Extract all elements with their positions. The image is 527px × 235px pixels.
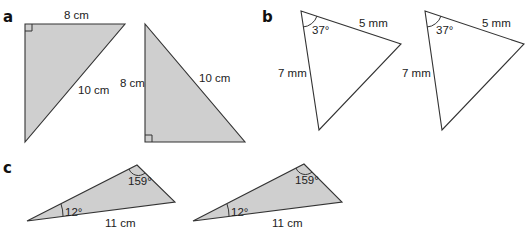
side-label: 5 mm bbox=[359, 17, 388, 29]
triangle-b1: 37° 5 mm 7 mm bbox=[278, 11, 401, 130]
part-label-b: b bbox=[262, 8, 273, 26]
angle-label: 12° bbox=[231, 206, 248, 218]
angle-label: 37° bbox=[312, 24, 329, 36]
congruence-diagram: a 8 cm 10 cm 8 cm 10 cm b 37° 5 mm 7 mm … bbox=[0, 0, 527, 235]
angle-label: 37° bbox=[436, 24, 453, 36]
side-label: 8 cm bbox=[64, 9, 89, 21]
side-label: 10 cm bbox=[78, 84, 109, 96]
triangle-a1: 8 cm 10 cm bbox=[25, 9, 125, 142]
side-label: 8 cm bbox=[120, 77, 145, 89]
side-label: 7 mm bbox=[278, 67, 307, 79]
triangle-b2: 37° 5 mm 7 mm bbox=[402, 11, 524, 130]
side-label: 7 mm bbox=[402, 67, 431, 79]
side-label: 5 mm bbox=[482, 17, 511, 29]
triangle-a2: 8 cm 10 cm bbox=[120, 24, 245, 142]
angle-label: 12° bbox=[65, 206, 82, 218]
angle-label: 159° bbox=[128, 175, 152, 187]
part-label-a: a bbox=[3, 8, 13, 26]
triangle-c1: 12° 159° 11 cm bbox=[27, 165, 175, 229]
part-label-c: c bbox=[3, 159, 12, 177]
side-label: 11 cm bbox=[105, 217, 135, 229]
angle-label: 159° bbox=[295, 174, 319, 186]
side-label: 11 cm bbox=[272, 217, 302, 229]
side-label: 10 cm bbox=[199, 72, 230, 84]
triangle-c2: 12° 159° 11 cm bbox=[193, 164, 342, 229]
